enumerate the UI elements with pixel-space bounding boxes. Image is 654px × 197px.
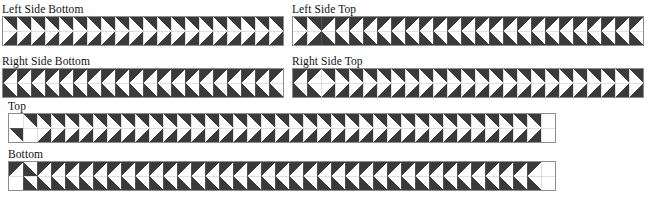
panel-right-side-bottom: Right Side Bottom (2, 55, 284, 98)
panel-label-bottom: Bottom (8, 148, 556, 161)
panel-bottom: Bottom (8, 148, 556, 191)
pattern-grid-bottom (8, 161, 556, 191)
panel-label-left-side-bottom: Left Side Bottom (2, 3, 284, 16)
panel-label-left-side-top: Left Side Top (292, 3, 644, 16)
panel-top: Top (8, 100, 556, 143)
panel-left-side-bottom: Left Side Bottom (2, 3, 284, 46)
pattern-grid-left-side-top (292, 16, 644, 46)
panel-left-side-top: Left Side Top (292, 3, 644, 46)
pattern-grid-right-side-bottom (2, 68, 284, 98)
panel-label-top: Top (8, 100, 556, 113)
panel-label-right-side-bottom: Right Side Bottom (2, 55, 284, 68)
panel-right-side-top: Right Side Top (292, 55, 644, 98)
pattern-grid-top (8, 113, 556, 143)
pattern-grid-left-side-bottom (2, 16, 284, 46)
pattern-grid-right-side-top (292, 68, 644, 98)
panel-label-right-side-top: Right Side Top (292, 55, 644, 68)
pattern-canvas: Left Side BottomLeft Side TopRight Side … (0, 0, 654, 197)
